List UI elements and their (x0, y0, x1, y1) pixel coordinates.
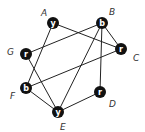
node-label: C (133, 53, 140, 63)
node-label: F (10, 91, 16, 101)
node-label: B (109, 7, 115, 17)
node-label: G (7, 47, 14, 57)
node-f: bF (10, 82, 32, 101)
node-label: D (109, 99, 116, 109)
node-c: rC (115, 43, 140, 63)
graph-diagram: yAbBrCrDyEbFrG (0, 0, 145, 132)
edge-b-e (58, 23, 102, 112)
node-color-letter: y (50, 19, 56, 28)
node-color-letter: r (24, 50, 28, 59)
node-a: yA (40, 8, 59, 29)
node-label: E (60, 122, 66, 132)
node-g: rG (7, 47, 32, 60)
node-color-letter: y (55, 108, 61, 117)
node-e: yE (52, 106, 66, 132)
edges (26, 23, 121, 112)
edge-g-e (26, 54, 58, 112)
node-color-letter: r (98, 88, 102, 97)
node-color-letter: b (99, 19, 105, 28)
node-color-letter: r (119, 45, 123, 54)
edge-a-c (53, 23, 121, 49)
node-label: A (40, 8, 47, 18)
edge-e-d (58, 92, 100, 112)
node-b: bB (96, 7, 115, 29)
nodes: yAbBrCrDyEbFrG (7, 7, 140, 132)
node-d: rD (94, 86, 116, 109)
node-color-letter: b (23, 84, 29, 93)
